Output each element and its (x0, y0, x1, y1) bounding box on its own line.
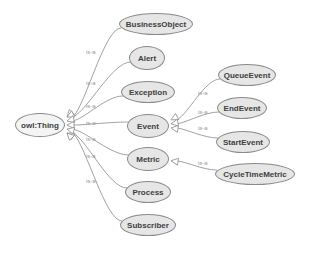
class-node-cycletimemetric[interactable]: CycleTimeMetric (215, 163, 295, 185)
class-node-startevent[interactable]: StartEvent (216, 131, 270, 153)
class-node-label: owl:Thing (21, 121, 59, 130)
is-a-edge (73, 28, 121, 117)
class-node-label: Process (132, 188, 163, 197)
class-node-label: Subscriber (127, 221, 169, 230)
arrowhead-icon (171, 119, 178, 126)
edge-label: is-a (198, 125, 208, 131)
class-node-label: StartEvent (223, 138, 263, 147)
class-node-endevent[interactable]: EndEvent (217, 97, 267, 119)
edge-label: is-a (198, 160, 208, 166)
edge-label: is-a (198, 109, 208, 115)
class-node-label: CycleTimeMetric (223, 170, 286, 179)
is-a-edge (73, 133, 127, 188)
class-node-process[interactable]: Process (125, 181, 171, 203)
class-node-metric[interactable]: Metric (127, 147, 169, 171)
class-node-label: Alert (138, 54, 156, 63)
edge-label: is-a (86, 103, 96, 109)
is-a-edge (73, 129, 129, 155)
class-node-label: Exception (129, 88, 167, 97)
ontology-diagram: owl:ThingBusinessObjectAlertExceptionEve… (0, 0, 321, 256)
is-a-edge (73, 96, 123, 121)
edge-label: is-a (86, 80, 96, 86)
class-node-businessobject[interactable]: BusinessObject (119, 13, 193, 35)
class-node-queueevent[interactable]: QueueEvent (218, 64, 276, 86)
class-node-alert[interactable]: Alert (129, 46, 165, 70)
edge-label: is-a (86, 136, 96, 142)
is-a-edge (73, 122, 129, 125)
edge-label: is-a (86, 120, 96, 126)
is-a-edge (177, 161, 217, 170)
edge-label: is-a (86, 153, 96, 159)
class-node-exception[interactable]: Exception (121, 81, 175, 103)
class-node-label: Metric (136, 155, 160, 164)
class-node-label: BusinessObject (126, 20, 186, 29)
is-a-edge (73, 133, 122, 221)
edge-label: is-a (198, 90, 208, 96)
class-node-thing[interactable]: owl:Thing (15, 113, 65, 137)
class-node-event[interactable]: Event (127, 114, 169, 138)
class-node-label: Event (137, 122, 159, 131)
edge-label: is-a (86, 178, 96, 184)
arrowhead-icon (171, 158, 178, 165)
edge-label: is-a (86, 49, 96, 55)
class-node-label: EndEvent (224, 104, 261, 113)
class-node-label: QueueEvent (224, 71, 271, 80)
class-node-subscriber[interactable]: Subscriber (120, 214, 176, 236)
arrowhead-icon (171, 125, 178, 132)
